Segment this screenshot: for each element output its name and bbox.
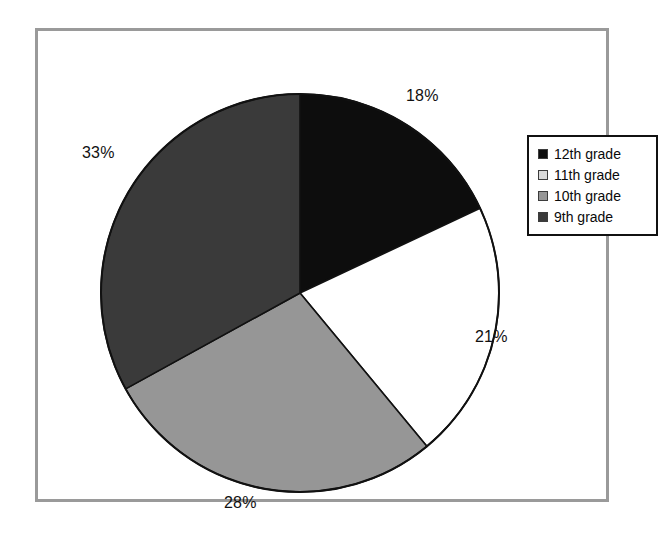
slice-label-11th-grade: 21% xyxy=(475,328,508,346)
chart-legend: 12th grade 11th grade 10th grade 9th gra… xyxy=(527,135,658,236)
legend-swatch-11th-grade xyxy=(538,170,548,180)
slice-label-10th-grade: 28% xyxy=(224,494,257,512)
pie-chart-plot-area xyxy=(100,93,500,493)
legend-label-10th-grade: 10th grade xyxy=(554,189,621,203)
chart-frame: 18% 21% 28% 33% 12th grade 11th grade 10… xyxy=(35,28,609,502)
legend-item-9th-grade: 9th grade xyxy=(538,207,648,227)
pie-svg xyxy=(100,93,500,493)
legend-label-11th-grade: 11th grade xyxy=(554,168,620,182)
legend-label-9th-grade: 9th grade xyxy=(554,210,613,224)
pie-slices-group xyxy=(101,94,499,492)
legend-label-12th-grade: 12th grade xyxy=(554,147,621,161)
legend-swatch-9th-grade xyxy=(538,212,548,222)
slice-label-9th-grade: 33% xyxy=(82,144,115,162)
legend-swatch-12th-grade xyxy=(538,149,548,159)
legend-item-10th-grade: 10th grade xyxy=(538,186,648,206)
legend-item-11th-grade: 11th grade xyxy=(538,165,648,185)
legend-item-12th-grade: 12th grade xyxy=(538,144,648,164)
slice-label-12th-grade: 18% xyxy=(406,87,439,105)
legend-swatch-10th-grade xyxy=(538,191,548,201)
